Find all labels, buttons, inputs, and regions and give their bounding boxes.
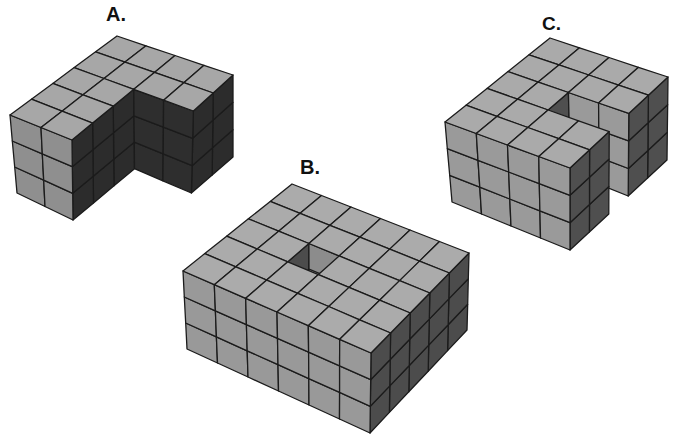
figure-a <box>10 36 233 220</box>
figure-label-b: B. <box>300 157 320 177</box>
figure-label-a: A. <box>106 4 126 24</box>
cube-figures <box>0 0 673 436</box>
figure-b <box>183 184 469 433</box>
figure-c <box>445 38 668 250</box>
diagram-canvas: A. B. C. <box>0 0 673 436</box>
figure-label-c: C. <box>542 14 561 33</box>
